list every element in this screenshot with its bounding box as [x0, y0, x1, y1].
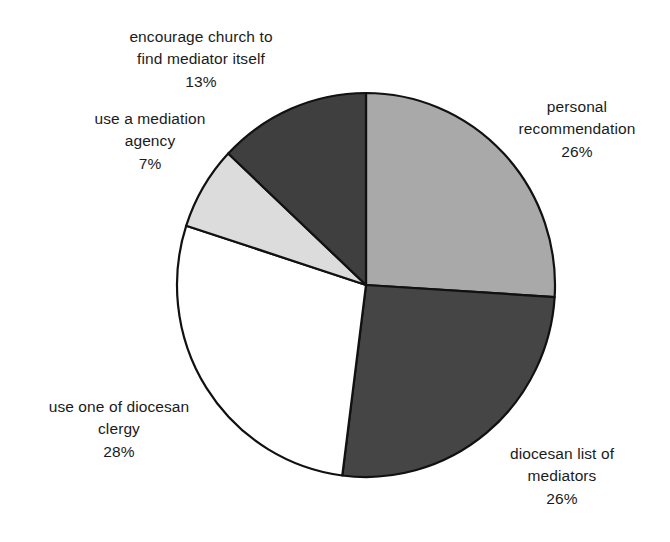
slice-label-personal-recommendation: personal recommendation 26%: [487, 96, 667, 163]
slice-label-mediation-agency: use a mediation agency 7%: [55, 108, 245, 175]
slice-label-percent: 13%: [86, 71, 316, 93]
slice-label-line-1: personal: [487, 96, 667, 118]
slice-label-percent: 26%: [462, 488, 662, 510]
slice-label-percent: 7%: [55, 153, 245, 175]
slice-label-diocesan-clergy: use one of diocesan clergy 28%: [14, 396, 224, 463]
slice-label-encourage-church: encourage church to find mediator itself…: [86, 26, 316, 93]
slice-label-percent: 26%: [487, 141, 667, 163]
slice-label-line-1: diocesan list of: [462, 443, 662, 465]
slice-label-percent: 28%: [14, 441, 224, 463]
slice-label-line-2: recommendation: [487, 118, 667, 140]
slice-label-line-1: encourage church to: [86, 26, 316, 48]
slice-label-line-2: clergy: [14, 418, 224, 440]
pie-chart: encourage church to find mediator itself…: [0, 0, 670, 542]
slice-label-line-2: agency: [55, 130, 245, 152]
slice-label-line-1: use a mediation: [55, 108, 245, 130]
slice-label-line-2: mediators: [462, 465, 662, 487]
slice-label-line-1: use one of diocesan: [14, 396, 224, 418]
slice-label-diocesan-list-of-mediators: diocesan list of mediators 26%: [462, 443, 662, 510]
slice-label-line-2: find mediator itself: [86, 48, 316, 70]
